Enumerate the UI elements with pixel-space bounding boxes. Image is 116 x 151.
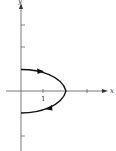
- y-axis-label: y: [17, 0, 23, 5]
- x-tick-label-1: 1: [41, 95, 45, 103]
- y-axis: [19, 3, 25, 151]
- x-axis-arrowhead-icon: [102, 89, 108, 93]
- arrow-right-icon: [37, 68, 44, 74]
- x-axis-label: x: [110, 87, 114, 95]
- arrow-left-icon: [45, 105, 53, 111]
- parametric-curve-diagram: 1 x y: [0, 0, 116, 151]
